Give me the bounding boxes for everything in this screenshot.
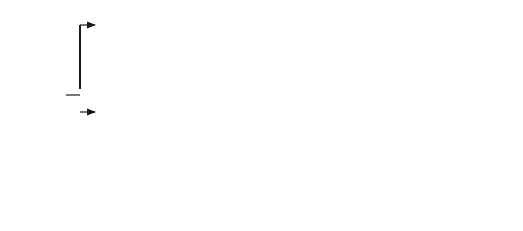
connector-lines — [0, 0, 523, 231]
